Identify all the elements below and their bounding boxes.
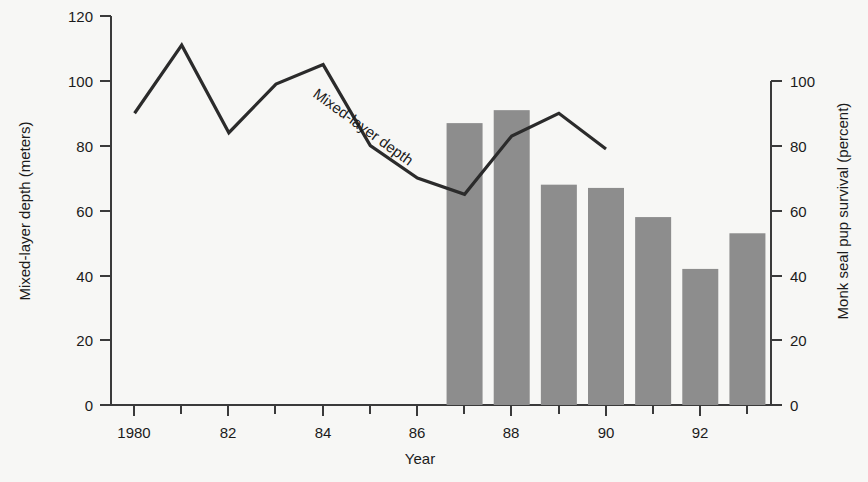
right-tick-label-60: 60 bbox=[790, 203, 807, 220]
x-axis-title: Year bbox=[405, 450, 435, 467]
bar bbox=[729, 233, 765, 405]
right-axis-title: Monk seal pup survival (percent) bbox=[834, 103, 851, 320]
left-tick-label-40: 40 bbox=[76, 268, 93, 285]
left-tick-label-120: 120 bbox=[68, 8, 93, 25]
x-tick-label-86: 86 bbox=[409, 424, 426, 441]
bar bbox=[541, 185, 577, 405]
right-tick-label-0: 0 bbox=[790, 397, 798, 414]
chart-svg: 120 100 80 60 40 20 0 100 80 60 40 bbox=[0, 0, 868, 482]
bar bbox=[635, 217, 671, 405]
bar bbox=[494, 110, 530, 405]
left-tick-label-60: 60 bbox=[76, 203, 93, 220]
x-tick-label-88: 88 bbox=[503, 424, 520, 441]
left-tick-label-20: 20 bbox=[76, 332, 93, 349]
bar bbox=[588, 188, 624, 405]
bar bbox=[682, 269, 718, 405]
x-tick-label-92: 92 bbox=[692, 424, 709, 441]
x-tick-label-84: 84 bbox=[315, 424, 332, 441]
left-tick-label-0: 0 bbox=[85, 397, 93, 414]
right-tick-label-80: 80 bbox=[790, 138, 807, 155]
right-tick-label-40: 40 bbox=[790, 268, 807, 285]
right-tick-label-100: 100 bbox=[790, 73, 815, 90]
x-tick-label-82: 82 bbox=[220, 424, 237, 441]
left-tick-label-80: 80 bbox=[76, 138, 93, 155]
bar bbox=[447, 123, 483, 405]
left-tick-label-100: 100 bbox=[68, 73, 93, 90]
left-axis-title: Mixed-layer depth (meters) bbox=[16, 121, 33, 300]
x-tick-label-1980: 1980 bbox=[117, 424, 150, 441]
chart-figure: 120 100 80 60 40 20 0 100 80 60 40 bbox=[0, 0, 868, 482]
right-tick-label-20: 20 bbox=[790, 332, 807, 349]
x-tick-label-90: 90 bbox=[598, 424, 615, 441]
